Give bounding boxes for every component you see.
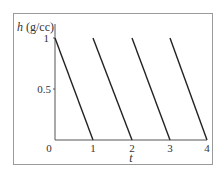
segment-1 bbox=[55, 38, 93, 140]
y-tick-label-05: 0.5 bbox=[37, 83, 51, 95]
x-tick-label-3: 3 bbox=[167, 142, 173, 154]
sawtooth-chart: h (g/cc) 1 0.5 0 1 2 3 4 t bbox=[0, 0, 224, 173]
x-tick-label-4: 4 bbox=[204, 142, 210, 154]
y-tick-label-1: 1 bbox=[44, 32, 50, 44]
x-tick-label-1: 1 bbox=[90, 142, 96, 154]
data-lines bbox=[55, 38, 207, 140]
segment-2 bbox=[93, 38, 132, 140]
segment-4 bbox=[170, 38, 207, 140]
origin-label: 0 bbox=[46, 142, 52, 154]
segment-3 bbox=[132, 38, 170, 140]
